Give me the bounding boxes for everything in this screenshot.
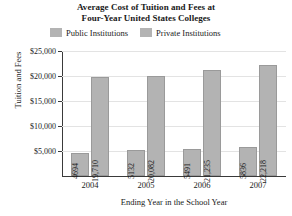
bar-value-label: 4694 bbox=[71, 163, 80, 179]
y-axis-tick bbox=[58, 126, 62, 127]
x-axis-category-label: 2004 bbox=[82, 180, 99, 190]
y-axis-tick-label: $10,000 bbox=[30, 122, 56, 131]
bar-value-label: 20,082 bbox=[147, 160, 156, 182]
y-axis-tick-label: $20,000 bbox=[30, 72, 56, 81]
y-axis-title: Tuition and Fees bbox=[13, 20, 23, 140]
bar: 5836 bbox=[239, 147, 257, 176]
plot-area: $5,000$10,000$15,000$20,000$25,000469419… bbox=[62, 51, 286, 177]
chart-legend: Public Institutions Private Institutions bbox=[50, 26, 288, 39]
y-axis-line bbox=[62, 51, 63, 177]
gridline bbox=[62, 51, 286, 52]
bar: 5491 bbox=[183, 149, 201, 176]
chart-title: Average Cost of Tuition and Fees at Four… bbox=[20, 2, 272, 23]
x-axis-category-label: 2006 bbox=[194, 180, 211, 190]
y-axis-tick-label: $15,000 bbox=[30, 97, 56, 106]
bar-value-label: 22,218 bbox=[259, 160, 268, 182]
x-axis-title: Ending Year in the School Year bbox=[62, 197, 286, 207]
bar: 19,710 bbox=[91, 77, 109, 176]
bar-value-label: 5132 bbox=[127, 163, 136, 179]
chart-title-line-2: Four-Year United States Colleges bbox=[20, 13, 272, 24]
legend-entry-private: Private Institutions bbox=[140, 28, 220, 38]
bar-value-label: 21,235 bbox=[203, 160, 212, 182]
legend-label-private: Private Institutions bbox=[156, 28, 220, 38]
bar: 21,235 bbox=[203, 70, 221, 176]
y-axis-tick bbox=[58, 151, 62, 152]
legend-swatch-private bbox=[140, 28, 152, 37]
chart-title-line-1: Average Cost of Tuition and Fees at bbox=[20, 2, 272, 13]
legend-entry-public: Public Institutions bbox=[50, 28, 128, 38]
y-axis-tick bbox=[58, 101, 62, 102]
bar: 20,082 bbox=[147, 76, 165, 176]
chart-container: Average Cost of Tuition and Fees at Four… bbox=[0, 0, 292, 216]
bar-value-label: 19,710 bbox=[91, 160, 100, 182]
y-axis-tick-label: $25,000 bbox=[30, 47, 56, 56]
x-axis-category-label: 2005 bbox=[138, 180, 155, 190]
legend-label-public: Public Institutions bbox=[66, 28, 128, 38]
bar: 22,218 bbox=[259, 65, 277, 176]
x-axis-category-label: 2007 bbox=[250, 180, 267, 190]
bar: 5132 bbox=[127, 150, 145, 176]
bar-value-label: 5491 bbox=[183, 163, 192, 179]
y-axis-tick-label: $5,000 bbox=[34, 147, 56, 156]
bar-value-label: 5836 bbox=[239, 163, 248, 179]
legend-swatch-public bbox=[50, 28, 62, 37]
bar: 4694 bbox=[71, 153, 89, 176]
y-axis-tick bbox=[58, 51, 62, 52]
y-axis-tick bbox=[58, 76, 62, 77]
